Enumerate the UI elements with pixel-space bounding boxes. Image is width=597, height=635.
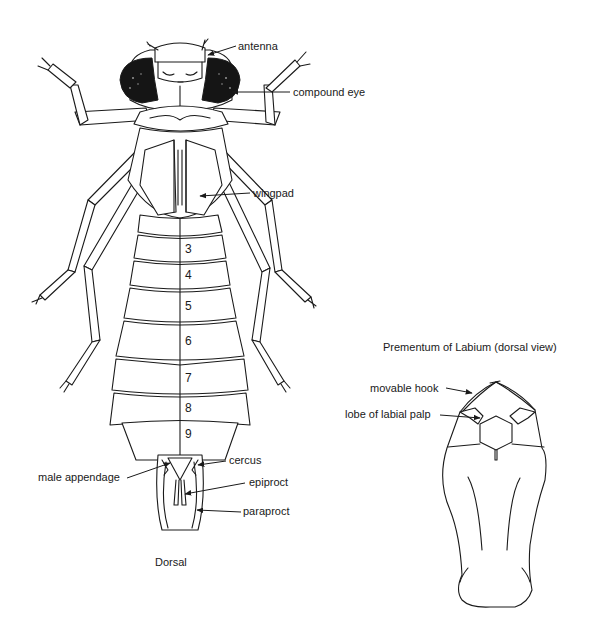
nymph-dorsal-illustration: 3 4 5 6 7 8 9 antenna compoun <box>32 39 365 568</box>
wingpad-label: wingpad <box>252 187 294 199</box>
dorsal-caption: Dorsal <box>155 556 187 568</box>
male-appendage-label: male appendage <box>38 471 120 483</box>
compound-eye-label: compound eye <box>293 86 365 98</box>
segment-label: 3 <box>185 242 192 256</box>
segment-label: 6 <box>185 334 192 348</box>
abdomen <box>110 215 250 460</box>
compound-eye-left <box>120 58 158 103</box>
caudal-appendages <box>157 455 204 530</box>
compound-eye-right <box>202 58 240 103</box>
diagram-canvas: 3 4 5 6 7 8 9 antenna compoun <box>0 0 597 635</box>
head <box>120 39 240 110</box>
labium-title: Prementum of Labium (dorsal view) <box>383 341 557 353</box>
segment-label: 8 <box>185 401 192 415</box>
antenna-label: antenna <box>238 40 279 52</box>
thorax <box>128 128 232 218</box>
segment-label: 5 <box>185 299 192 313</box>
cercus-label: cercus <box>229 454 262 466</box>
movable-hook-label: movable hook <box>370 382 439 394</box>
segment-label: 7 <box>185 371 192 385</box>
labium-illustration: Prementum of Labium (dorsal view) movabl… <box>345 341 557 607</box>
paraproct-label: paraproct <box>243 505 289 517</box>
wingpad-left <box>140 140 176 215</box>
epiproct-label: epiproct <box>249 476 288 488</box>
segment-label: 4 <box>185 268 192 282</box>
segment-label: 9 <box>185 427 192 441</box>
prothorax <box>134 106 228 131</box>
labial-palp-lobe-label: lobe of labial palp <box>345 408 431 420</box>
segment-numbers: 3 4 5 6 7 8 9 <box>185 242 192 441</box>
